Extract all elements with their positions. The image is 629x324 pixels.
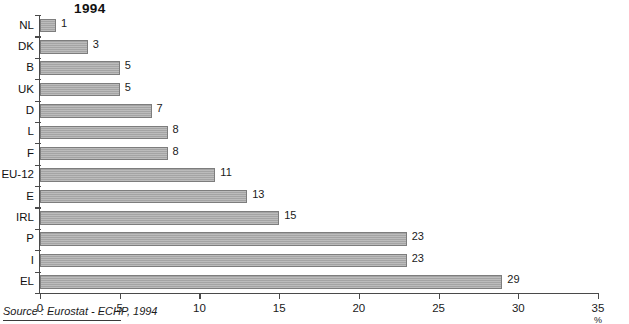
category-label-p: P	[1, 232, 34, 244]
source-underline	[3, 320, 121, 321]
y-axis-tick	[35, 58, 41, 59]
bar-row: D7	[40, 101, 598, 122]
bar-row: E13	[40, 186, 598, 207]
category-label-uk: UK	[1, 83, 34, 95]
x-axis-label-25: 25	[432, 302, 445, 314]
bar-b	[40, 61, 120, 75]
bar-p	[40, 232, 407, 246]
chart-figure: 1994 NL1DK3B5UK5D7L8F8EU-1211E13IRL15P23…	[0, 0, 629, 324]
x-axis-label-35: 35	[592, 302, 605, 314]
bar-dk	[40, 40, 88, 54]
x-axis-tick	[439, 293, 440, 299]
y-axis-tick	[35, 165, 41, 166]
y-axis-tick	[35, 250, 41, 251]
y-axis-tick	[35, 36, 41, 37]
x-axis-tick	[359, 293, 360, 299]
bar-row: EL29	[40, 272, 598, 293]
category-label-b: B	[1, 61, 34, 73]
x-axis-unit-label: %	[594, 315, 602, 324]
chart-title: 1994	[74, 1, 106, 16]
bar-value-p: 23	[412, 230, 424, 242]
y-axis-tick	[35, 186, 41, 187]
category-label-f: F	[1, 147, 34, 159]
bar-value-i: 23	[412, 252, 424, 264]
bar-f	[40, 147, 168, 161]
category-label-e: E	[1, 190, 34, 202]
y-axis-tick	[35, 15, 41, 16]
bar-value-f: 8	[173, 145, 179, 157]
x-axis-tick	[40, 293, 41, 299]
bar-uk	[40, 83, 120, 97]
bar-value-dk: 3	[93, 38, 99, 50]
y-axis-tick	[35, 101, 41, 102]
x-axis-label-30: 30	[512, 302, 525, 314]
x-axis-label-20: 20	[352, 302, 365, 314]
bar-value-l: 8	[173, 123, 179, 135]
bar-value-irl: 15	[284, 209, 296, 221]
bar-row: DK3	[40, 36, 598, 57]
bar-i	[40, 254, 407, 268]
category-label-l: L	[1, 125, 34, 137]
bar-value-b: 5	[125, 59, 131, 71]
x-axis-tick	[518, 293, 519, 299]
source-note: Source : Eurostat - ECHP, 1994	[3, 305, 158, 317]
x-axis-label-10: 10	[193, 302, 206, 314]
category-label-el: EL	[1, 275, 34, 287]
category-label-i: I	[1, 254, 34, 266]
category-label-d: D	[1, 104, 34, 116]
y-axis-tick	[35, 229, 41, 230]
x-axis-tick	[279, 293, 280, 299]
x-axis-tick	[120, 293, 121, 299]
bar-eu-12	[40, 168, 215, 182]
bar-row: P23	[40, 229, 598, 250]
x-axis-line	[39, 293, 599, 294]
y-axis-tick	[35, 79, 41, 80]
y-axis-tick	[35, 272, 41, 273]
y-axis-tick	[35, 207, 41, 208]
bar-row: IRL15	[40, 207, 598, 228]
bar-el	[40, 275, 502, 289]
bar-row: L8	[40, 122, 598, 143]
bar-value-nl: 1	[61, 17, 67, 29]
bar-value-d: 7	[157, 102, 163, 114]
bar-row: EU-1211	[40, 165, 598, 186]
category-label-nl: NL	[1, 19, 34, 31]
y-axis-tick	[35, 143, 41, 144]
bar-e	[40, 190, 247, 204]
x-axis-label-15: 15	[273, 302, 286, 314]
bar-value-el: 29	[507, 273, 519, 285]
bar-row: F8	[40, 143, 598, 164]
x-axis-tick	[199, 293, 200, 299]
x-axis-tick	[598, 293, 599, 299]
category-label-dk: DK	[1, 40, 34, 52]
category-label-eu-12: EU-12	[1, 168, 34, 180]
bar-value-e: 13	[252, 188, 264, 200]
bar-nl	[40, 19, 56, 33]
bar-irl	[40, 211, 279, 225]
bar-value-eu-12: 11	[220, 166, 231, 178]
bar-d	[40, 104, 152, 118]
plot-area: NL1DK3B5UK5D7L8F8EU-1211E13IRL15P23I23EL…	[40, 15, 598, 293]
category-label-irl: IRL	[1, 211, 34, 223]
bar-row: B5	[40, 58, 598, 79]
bar-row: NL1	[40, 15, 598, 36]
y-axis-tick	[35, 122, 41, 123]
bar-l	[40, 126, 168, 140]
bar-row: I23	[40, 250, 598, 271]
bar-row: UK5	[40, 79, 598, 100]
bar-value-uk: 5	[125, 81, 131, 93]
